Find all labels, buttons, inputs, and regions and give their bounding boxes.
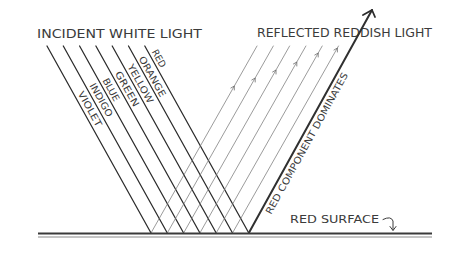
incident-light-title: INCIDENT WHITE LIGHT	[37, 27, 203, 41]
incident-ray-yellow	[112, 46, 216, 233]
surface-label: RED SURFACE	[290, 213, 379, 226]
incident-ray-orange	[129, 46, 233, 233]
reflected-light-title: REFLECTED REDDISH LIGHT	[257, 26, 433, 40]
reflection-diagram: INCIDENT WHITE LIGHT REFLECTED REDDISH L…	[0, 0, 457, 254]
reflected-ray-orange	[233, 46, 339, 233]
reflected-ray-violet	[151, 46, 257, 233]
reflected-ray-green	[200, 46, 306, 233]
incident-ray-red	[145, 46, 249, 233]
reflected-ray-indigo	[167, 46, 273, 233]
spectrum-labels: VIOLET INDIGO BLUE GREEN YELLOW ORANGE R…	[76, 47, 169, 128]
red-surface	[38, 234, 432, 238]
red-component-annotation: RED COMPONENT DOMINATES	[263, 71, 350, 216]
reflected-ray-red-dominant	[249, 10, 372, 233]
